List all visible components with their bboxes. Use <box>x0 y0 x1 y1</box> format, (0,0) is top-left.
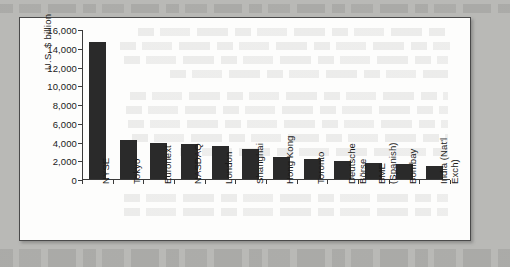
x-axis-category-label: NASDAQ <box>193 143 204 184</box>
x-axis-tick <box>327 180 328 184</box>
y-axis-tick-label: 14,000 <box>47 43 77 54</box>
x-axis-tick <box>297 180 298 184</box>
y-axis-tick-label: 16,000 <box>47 25 77 36</box>
x-axis-category-label: NYSE <box>101 158 112 184</box>
x-axis-category-label: Hong Kong <box>285 136 296 184</box>
y-axis-tick <box>78 124 83 125</box>
page-bleed-text-bottom <box>0 249 510 258</box>
y-axis-tick <box>78 68 83 69</box>
y-axis-tick-label: 2,000 <box>53 156 77 167</box>
x-axis-category-label: Toronto <box>316 152 327 184</box>
x-axis-category-label: India (Nat'lExch) <box>439 138 460 184</box>
x-axis-tick <box>113 180 114 184</box>
x-axis-category-label: BME(Spanish) <box>377 142 398 184</box>
x-axis-category-label: DeutscheBörse <box>347 143 368 184</box>
ghost-text-line <box>124 208 448 216</box>
page-bleed-text-top <box>0 4 510 13</box>
y-axis-tick-label: 4,000 <box>53 137 77 148</box>
page-bleed-text-bottom2 <box>0 258 510 267</box>
x-axis-tick <box>82 180 83 184</box>
y-axis-tick <box>78 30 83 31</box>
x-axis-category-label: Tokyo <box>132 159 143 184</box>
x-axis-tick <box>174 180 175 184</box>
x-axis-category-label: Bombay <box>408 149 419 184</box>
x-axis-tick <box>235 180 236 184</box>
y-axis-tick <box>78 105 83 106</box>
y-axis-tick-label: 8,000 <box>53 100 77 111</box>
x-axis-tick <box>419 180 420 184</box>
x-axis-category-label: Shanghai <box>255 143 266 184</box>
x-axis-category-label: Euronext <box>163 145 174 184</box>
y-axis-tick-label: 10,000 <box>47 81 77 92</box>
y-axis-tick <box>78 86 83 87</box>
x-axis-tick <box>143 180 144 184</box>
y-axis-tick-label: 6,000 <box>53 118 77 129</box>
x-axis-tick <box>266 180 267 184</box>
chart-figure-panel: U.S. $ billion 02,0004,0006,0008,00010,0… <box>19 17 471 241</box>
y-axis-tick-label: 0 <box>72 175 77 186</box>
ghost-text-line <box>124 194 448 202</box>
y-axis-tick <box>78 161 83 162</box>
y-axis-tick <box>78 143 83 144</box>
y-axis-tick-label: 12,000 <box>47 62 77 73</box>
x-axis-category-label: London <box>224 152 235 184</box>
y-axis-tick <box>78 49 83 50</box>
x-axis-tick <box>205 180 206 184</box>
